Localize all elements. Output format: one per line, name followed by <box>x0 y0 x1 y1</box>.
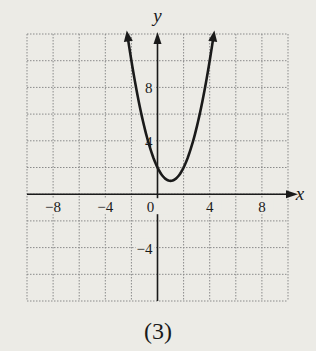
x-tick-label: 0 <box>147 199 155 215</box>
x-tick-label: 4 <box>206 199 214 215</box>
y-tick-label: 8 <box>145 80 153 96</box>
x-tick-label: −8 <box>45 199 61 215</box>
y-axis-label: y <box>151 5 162 26</box>
curve-arrow-right-icon <box>208 30 217 42</box>
x-tick-label: −4 <box>97 199 113 215</box>
parabola-path <box>128 39 213 181</box>
figure-caption: (3) <box>0 318 316 345</box>
axes <box>27 32 298 301</box>
x-tick-label: 8 <box>258 199 266 215</box>
parabola-chart: −8−404884−4xy <box>0 0 316 351</box>
curve-arrow-left-icon <box>124 30 133 42</box>
x-axis-label: x <box>295 183 305 204</box>
tick-labels: −8−404884−4xy <box>41 5 305 257</box>
parabola-curve <box>124 30 217 180</box>
y-tick-label: −4 <box>137 241 153 257</box>
